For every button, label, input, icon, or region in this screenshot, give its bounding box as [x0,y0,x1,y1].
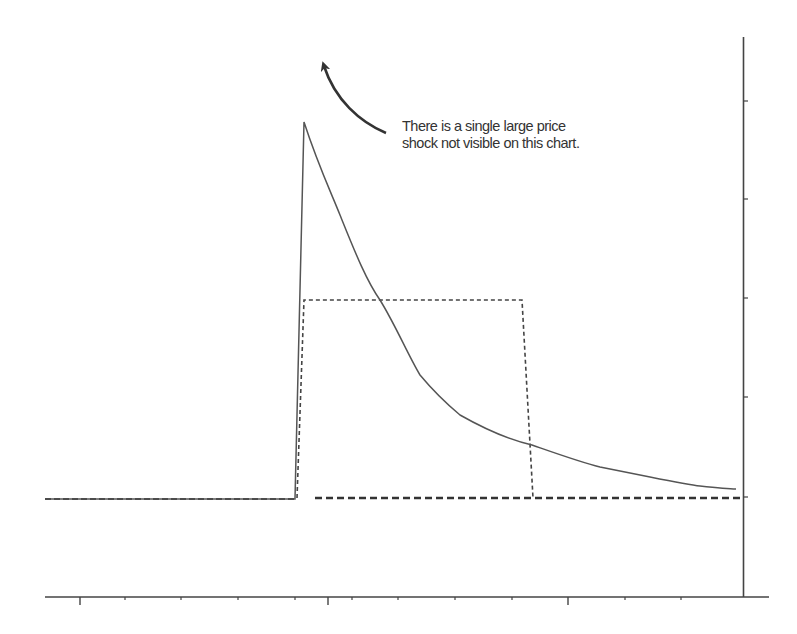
price-response-series [45,122,736,499]
x-axis [45,597,769,605]
annotation-arrow-icon [324,66,386,133]
annotation-text: There is a single large price shock not … [402,118,579,152]
annotation-line-1: There is a single large price [402,118,579,135]
chart [0,0,797,634]
annotation-line-2: shock not visible on this chart. [402,135,579,152]
y-axis [744,37,749,597]
temporary-step-series [297,300,533,498]
